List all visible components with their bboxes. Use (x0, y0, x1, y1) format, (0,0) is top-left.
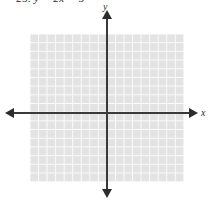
x-axis-left-arrow-icon (5, 108, 14, 118)
x-axis-label: x (201, 108, 205, 118)
y-axis-down-arrow-icon (102, 189, 112, 198)
y-axis-label: y (103, 2, 107, 12)
coordinate-plane: x y (0, 0, 214, 201)
y-axis-line (106, 18, 108, 192)
x-axis-line (12, 112, 192, 114)
x-axis-right-arrow-icon (189, 108, 198, 118)
exercise-screenshot: 25.y = 2x − 5 x y (0, 0, 214, 201)
